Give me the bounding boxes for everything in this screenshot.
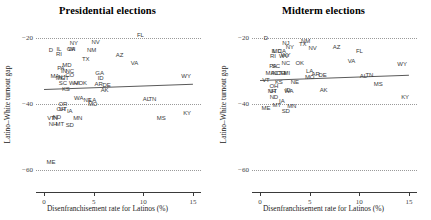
data-point-label: KY — [401, 94, 409, 100]
data-point-label: IA — [67, 108, 72, 114]
x-tick-mark-15 — [193, 193, 194, 196]
x-tick-mark-0 — [260, 193, 261, 196]
data-point-label: AK — [320, 87, 328, 93]
data-point-label: ME — [47, 159, 56, 165]
y-tick-label--20: −20 — [22, 34, 33, 42]
data-point-label: AZ — [116, 52, 123, 58]
plot-area-presidential: −20−40−60FLNYNVILCAWINMDRIAZTXMDPAINNCVA… — [36, 28, 201, 180]
data-point-label: SC — [272, 63, 280, 69]
data-point-label: ME — [262, 105, 271, 111]
x-axis-line-right: 051015 — [252, 192, 417, 193]
plot-area-midterm: −20−40−60DNMNJTXNYNVAZILMDCAFLWYRIWVVANC… — [252, 28, 417, 180]
data-point-label: RI — [270, 53, 276, 59]
data-point-label: MO — [305, 74, 314, 80]
data-point-label: MS — [374, 81, 383, 87]
data-point-label: NY — [70, 40, 78, 46]
y-axis-title-left: Latino–White turnout gap — [2, 28, 14, 180]
data-point-label: OK — [78, 80, 86, 86]
panel-presidential: Presidential elections Latino–White turn… — [0, 0, 215, 220]
data-point-label: VA — [131, 60, 138, 66]
x-tick-mark-5 — [310, 193, 311, 196]
data-point-label: FL — [137, 32, 144, 38]
data-point-label: MN — [73, 115, 82, 121]
data-point-label: NE — [291, 79, 299, 85]
y-tick-label--20: −20 — [238, 34, 249, 42]
data-point-label: NV — [92, 39, 100, 45]
data-point-label: ND — [270, 94, 278, 100]
data-point-label: DE — [318, 72, 326, 78]
data-point-label: VT — [262, 77, 269, 83]
data-point-label: UT — [59, 106, 67, 112]
panel-title-midterm: Midterm elections — [216, 5, 431, 16]
x-tick-mark-10 — [359, 193, 360, 196]
panel-title-presidential: Presidential elections — [0, 5, 215, 16]
data-point-label: D — [264, 35, 268, 41]
data-point-label: SD — [66, 122, 74, 128]
data-point-label: ID — [285, 87, 291, 93]
data-point-label: MT — [273, 102, 281, 108]
x-axis-title-left: Disenfranchisement rate for Latinos (%) — [0, 204, 215, 213]
y-axis-title-right-text: Latino–White turnout gap — [220, 65, 229, 143]
data-point-label: TN — [365, 72, 373, 78]
y-tick-label--40: −40 — [22, 100, 33, 108]
data-point-label: KS — [62, 86, 70, 92]
x-axis-line-left: 051015 — [36, 192, 201, 193]
x-tick-mark-5 — [94, 193, 95, 196]
figure-scatter-pair: Presidential elections Latino–White turn… — [0, 0, 431, 220]
data-point-label: FL — [356, 48, 363, 54]
x-axis-title-right: Disenfranchisement rate for Latinos (%) — [216, 204, 431, 213]
gridline-y--20 — [36, 38, 201, 39]
x-tick-mark-15 — [409, 193, 410, 196]
y-tick-label--60: −60 — [22, 166, 33, 174]
data-point-label: NM — [87, 47, 96, 53]
data-point-label: WI — [68, 46, 75, 52]
data-point-label: TX — [82, 56, 89, 62]
data-point-label: RI — [56, 51, 62, 57]
data-point-label: MS — [157, 115, 166, 121]
data-point-label: NC — [282, 60, 290, 66]
data-point-label: WY — [397, 61, 406, 67]
data-point-label: WA — [74, 95, 83, 101]
data-point-label: MO — [88, 101, 97, 107]
data-point-label: NV — [309, 45, 317, 51]
data-point-label: VA — [348, 58, 355, 64]
data-point-label: AZ — [333, 44, 340, 50]
gridline-y--20 — [252, 38, 417, 39]
data-point-label: KY — [183, 110, 191, 116]
data-point-label: WY — [181, 73, 190, 79]
data-point-label: AK — [101, 87, 109, 93]
data-point-label: OK — [295, 60, 303, 66]
data-point-label: SD — [282, 108, 290, 114]
data-point-label: D — [49, 47, 53, 53]
gridline-y--60 — [36, 170, 201, 171]
y-axis-title-right: Latino–White turnout gap — [218, 28, 230, 180]
x-tick-mark-10 — [143, 193, 144, 196]
y-tick-label--40: −40 — [238, 100, 249, 108]
data-point-label: ID — [98, 75, 104, 81]
panel-midterm: Midterm elections Latino–White turnout g… — [216, 0, 431, 220]
data-point-label: IN — [52, 115, 58, 121]
data-point-label: TX — [299, 41, 306, 47]
y-tick-label--60: −60 — [238, 166, 249, 174]
data-point-label: WV — [279, 53, 288, 59]
data-point-label: NY — [286, 44, 294, 50]
data-point-label: AR — [95, 81, 103, 87]
data-point-label: MI — [284, 70, 290, 76]
y-axis-title-left-text: Latino–White turnout gap — [4, 65, 13, 143]
data-point-label: MT — [56, 121, 64, 127]
x-tick-mark-0 — [44, 193, 45, 196]
data-point-label: TN — [148, 96, 156, 102]
gridline-y--60 — [252, 170, 417, 171]
